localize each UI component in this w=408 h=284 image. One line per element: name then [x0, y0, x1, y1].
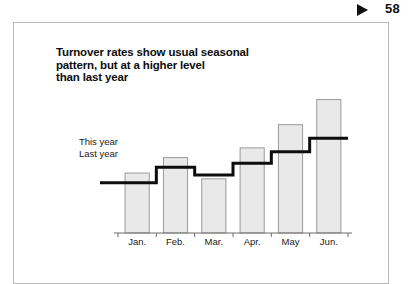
x-axis-tick-labels: Jan.Feb.Mar.Apr.MayJun.	[118, 236, 348, 250]
x-tick-label-mar: Mar.	[194, 236, 234, 247]
chart-title-line-1: Turnover rates show usual seasonal	[56, 46, 356, 59]
x-tick-label-may: May	[271, 236, 311, 247]
legend-item-last-year: Last year	[62, 148, 118, 160]
page-header: 58	[0, 0, 408, 22]
page-number: 58	[385, 1, 400, 16]
chart-title-line-3: than last year	[56, 71, 356, 84]
play-triangle-icon	[357, 4, 368, 16]
legend-item-this-year: This year	[62, 136, 118, 148]
chart-legend: This year Last year	[62, 136, 118, 159]
x-tick-label-apr: Apr.	[232, 236, 272, 247]
x-tick-label-jun: Jun.	[309, 236, 349, 247]
chart-title-line-2: pattern, but at a higher level	[56, 59, 356, 72]
chart-title: Turnover rates show usual seasonal patte…	[56, 46, 356, 84]
x-tick-label-jan: Jan.	[117, 236, 157, 247]
x-tick-label-feb: Feb.	[156, 236, 196, 247]
